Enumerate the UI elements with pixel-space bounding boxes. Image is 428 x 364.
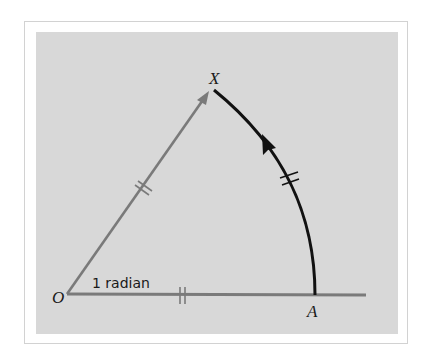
label-x: X: [208, 69, 220, 88]
arc-arrowhead-icon: [262, 134, 276, 155]
baseline-oa: [67, 294, 366, 295]
ray-ox: [67, 97, 205, 294]
label-a: A: [306, 302, 318, 321]
label-o: O: [52, 288, 64, 307]
ray-arrowhead-icon: [197, 91, 209, 105]
arc-ax: [214, 90, 315, 295]
label-angle: 1 radian: [92, 275, 150, 291]
radian-diagram: X O A 1 radian: [0, 0, 428, 364]
